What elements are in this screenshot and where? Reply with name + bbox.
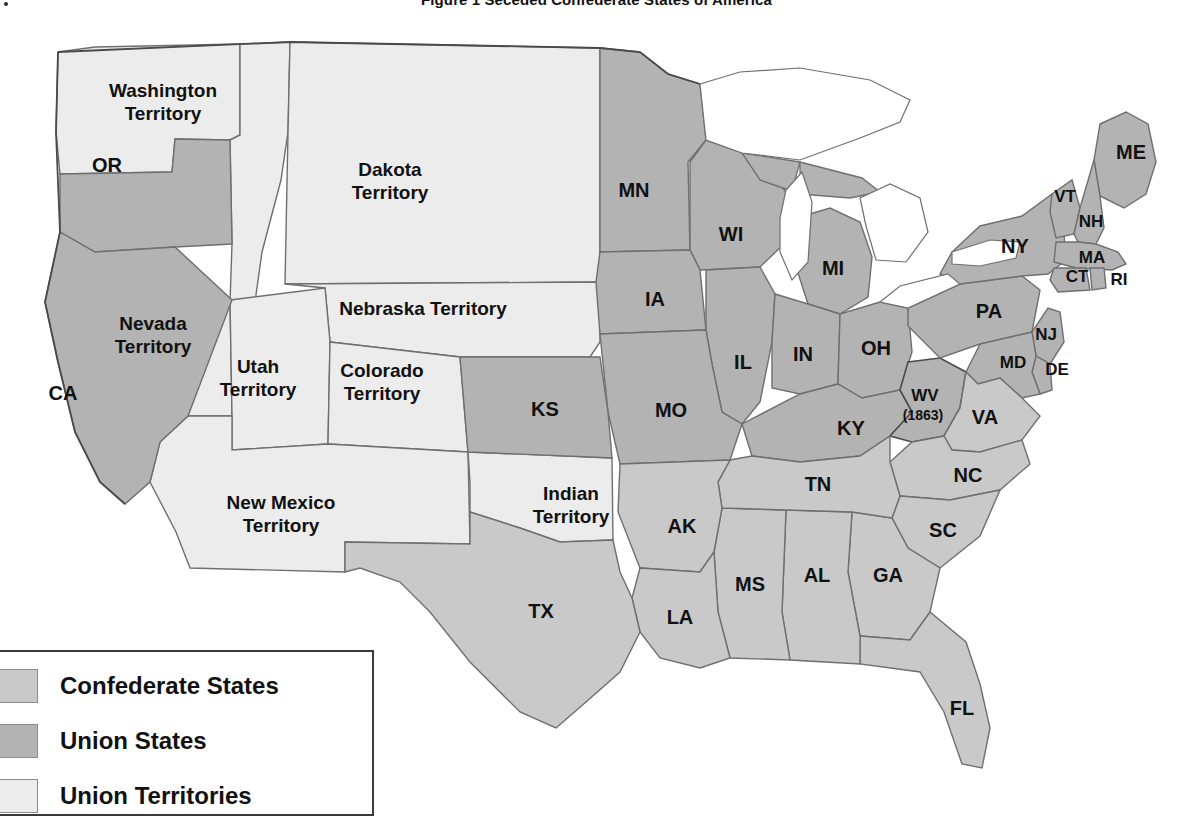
legend-item-union: Union States bbox=[0, 716, 372, 765]
territory-label-dakota-territory: Dakota bbox=[358, 159, 422, 180]
state-label-il: IL bbox=[734, 351, 752, 373]
state-label-la: LA bbox=[667, 606, 694, 628]
state-label-mn: MN bbox=[618, 179, 649, 201]
territory-label-indian-territory: Indian bbox=[543, 483, 599, 504]
page-title: Figure 1 Seceded Confederate States of A… bbox=[421, 0, 772, 8]
figure-title-bar: Figure 1 Seceded Confederate States of A… bbox=[0, 0, 1193, 13]
legend-label-confederate: Confederate States bbox=[60, 672, 279, 700]
region-texas bbox=[345, 512, 640, 728]
state-label-wv-year: (1863) bbox=[903, 407, 943, 423]
state-label-ia: IA bbox=[645, 288, 665, 310]
corner-bullet-marker bbox=[4, 2, 8, 6]
map-page: Figure 1 Seceded Confederate States of A… bbox=[0, 0, 1193, 833]
state-label-de: DE bbox=[1045, 360, 1069, 379]
state-label-al: AL bbox=[804, 564, 831, 586]
state-label-pa: PA bbox=[976, 300, 1002, 322]
state-label-nj: NJ bbox=[1035, 325, 1057, 344]
state-label-ak: AK bbox=[668, 515, 697, 537]
state-label-oh: OH bbox=[861, 337, 891, 359]
state-label-ga: GA bbox=[873, 564, 903, 586]
territory-label-utah-territory: Territory bbox=[220, 379, 297, 400]
state-label-ks: KS bbox=[531, 398, 559, 420]
state-label-md: MD bbox=[1000, 353, 1026, 372]
state-label-or: OR bbox=[92, 154, 123, 176]
state-label-tx: TX bbox=[528, 600, 554, 622]
territory-label-dakota-territory: Territory bbox=[352, 182, 429, 203]
territory-label-nevada-territory: Nevada bbox=[119, 313, 187, 334]
state-label-nh: NH bbox=[1079, 212, 1104, 231]
state-label-fl: FL bbox=[950, 697, 974, 719]
region-rhode-island bbox=[1090, 268, 1106, 290]
state-label-wi: WI bbox=[719, 223, 743, 245]
state-label-me: ME bbox=[1116, 141, 1146, 163]
legend-swatch-territories bbox=[0, 779, 38, 813]
state-label-nc: NC bbox=[954, 464, 983, 486]
territory-label-colorado-territory: Colorado bbox=[340, 360, 423, 381]
state-label-sc: SC bbox=[929, 519, 957, 541]
territory-label-new-mexico-territory: Territory bbox=[243, 515, 320, 536]
territory-label-indian-territory: Territory bbox=[533, 506, 610, 527]
state-label-vt: VT bbox=[1054, 187, 1076, 206]
legend-item-territories: Union Territories bbox=[0, 771, 372, 820]
territory-label-nebraska-territory: Nebraska Territory bbox=[339, 298, 507, 319]
state-label-ma: MA bbox=[1079, 248, 1105, 267]
state-label-mi: MI bbox=[822, 257, 844, 279]
state-label-ms: MS bbox=[735, 573, 765, 595]
legend-label-union: Union States bbox=[60, 727, 207, 755]
state-label-wv: WV bbox=[911, 386, 939, 405]
territory-label-washington-territory: Washington bbox=[109, 80, 217, 101]
map-legend: Confederate States Union States Union Te… bbox=[0, 650, 374, 816]
territory-label-colorado-territory: Territory bbox=[344, 383, 421, 404]
region-dakota-territory bbox=[285, 42, 600, 284]
state-label-ny: NY bbox=[1001, 235, 1029, 257]
territory-label-nevada-territory: Territory bbox=[115, 336, 192, 357]
legend-swatch-union bbox=[0, 724, 38, 758]
legend-item-confederate: Confederate States bbox=[0, 661, 372, 710]
state-label-ca: CA bbox=[49, 382, 78, 404]
state-label-in: IN bbox=[793, 343, 813, 365]
state-label-ky: KY bbox=[837, 417, 865, 439]
territory-label-utah-territory: Utah bbox=[237, 356, 279, 377]
legend-label-territories: Union Territories bbox=[60, 782, 252, 810]
state-label-tn: TN bbox=[805, 473, 832, 495]
region-alabama bbox=[782, 510, 860, 664]
territory-label-washington-territory: Territory bbox=[125, 103, 202, 124]
legend-swatch-confederate bbox=[0, 669, 38, 703]
state-label-ct: CT bbox=[1066, 267, 1089, 286]
territory-label-new-mexico-territory: New Mexico bbox=[227, 492, 336, 513]
lake-superior bbox=[700, 68, 910, 160]
state-label-va: VA bbox=[972, 406, 998, 428]
state-label-ri: RI bbox=[1111, 270, 1128, 289]
state-label-mo: MO bbox=[655, 399, 687, 421]
